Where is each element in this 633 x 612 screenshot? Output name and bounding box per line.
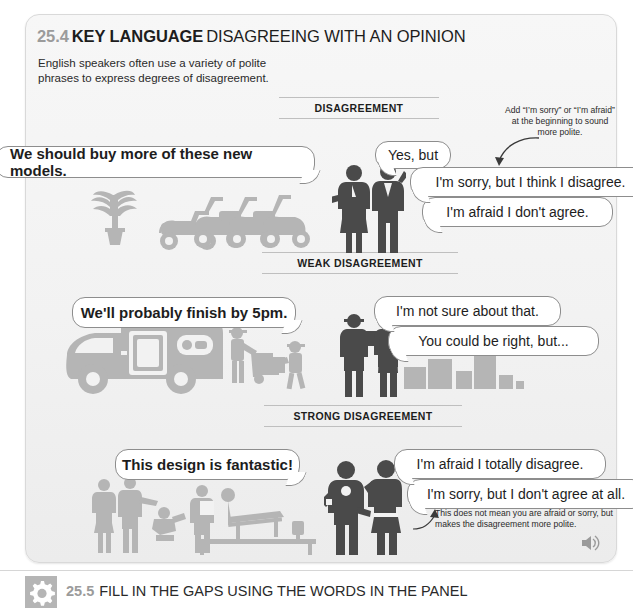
response-bubble-could-be-right: You could be right, but... bbox=[388, 326, 599, 356]
response-bubble-totally-disagree: I'm afraid I totally disagree. bbox=[394, 449, 606, 479]
response-text-not-agree-at-all: I'm sorry, but I don't agree at all. bbox=[427, 486, 625, 502]
illustration-boxes bbox=[404, 355, 524, 399]
annotation-not-afraid-note: This does not mean you are afraid or sor… bbox=[435, 508, 633, 530]
annotation-polite-note: Add “I’m sorry” or “I’m afraid” at the b… bbox=[505, 105, 615, 139]
speaker-icon[interactable] bbox=[580, 534, 600, 552]
response-bubble-not-agree-at-all: I'm sorry, but I don't agree at all. bbox=[407, 479, 633, 509]
response-text-could-be-right: You could be right, but... bbox=[418, 333, 568, 349]
illustration-people-disagreement bbox=[332, 163, 406, 255]
panel-key-language-label: KEY LANGUAGE bbox=[72, 27, 203, 45]
key-language-panel: 25.4KEY LANGUAGEDISAGREEING WITH AN OPIN… bbox=[25, 14, 617, 563]
response-text-yes-but: Yes, but bbox=[388, 147, 438, 163]
response-text-not-sure: I'm not sure about that. bbox=[396, 303, 539, 319]
next-exercise-strip: 25.5FILL IN THE GAPS USING THE WORDS IN … bbox=[0, 570, 633, 612]
statement-bubble-disagreement: We should buy more of these new models. bbox=[0, 146, 315, 178]
response-text-afraid-dont-agree: I'm afraid I don't agree. bbox=[446, 204, 588, 220]
gear-icon bbox=[25, 576, 57, 608]
statement-text-weak-disagreement: We'll probably finish by 5pm. bbox=[81, 304, 288, 321]
page-root: 25.4KEY LANGUAGEDISAGREEING WITH AN OPIN… bbox=[0, 0, 633, 612]
response-bubble-sorry-disagree: I'm sorry, but I think I disagree. bbox=[410, 167, 633, 197]
statement-bubble-weak-disagreement: We'll probably finish by 5pm. bbox=[72, 297, 296, 328]
panel-number: 25.4 bbox=[37, 27, 69, 45]
section-caption-disagreement: DISAGREEMENT bbox=[279, 97, 439, 119]
panel-header: 25.4KEY LANGUAGEDISAGREEING WITH AN OPIN… bbox=[37, 27, 466, 46]
section-caption-weak-disagreement: WEAK DISAGREEMENT bbox=[262, 252, 458, 274]
panel-intro-text: English speakers often use a variety of … bbox=[38, 56, 288, 86]
response-text-totally-disagree: I'm afraid I totally disagree. bbox=[417, 456, 584, 472]
next-exercise-label: FILL IN THE GAPS USING THE WORDS IN THE … bbox=[99, 583, 467, 599]
illustration-scooters bbox=[83, 175, 333, 255]
next-exercise-title: 25.5FILL IN THE GAPS USING THE WORDS IN … bbox=[66, 583, 467, 599]
response-bubble-afraid-dont-agree: I'm afraid I don't agree. bbox=[422, 197, 613, 227]
statement-text-disagreement: We should buy more of these new models. bbox=[10, 145, 304, 179]
statement-text-strong-disagreement: This design is fantastic! bbox=[122, 456, 293, 473]
response-text-sorry-disagree: I'm sorry, but I think I disagree. bbox=[436, 174, 626, 190]
section-caption-strong-disagreement: STRONG DISAGREEMENT bbox=[264, 405, 462, 427]
illustration-people-strong-disagreement bbox=[324, 459, 402, 555]
next-exercise-number: 25.5 bbox=[66, 583, 94, 599]
panel-title: DISAGREEING WITH AN OPINION bbox=[206, 27, 466, 45]
statement-bubble-strong-disagreement: This design is fantastic! bbox=[115, 449, 300, 480]
response-bubble-not-sure: I'm not sure about that. bbox=[374, 296, 561, 326]
